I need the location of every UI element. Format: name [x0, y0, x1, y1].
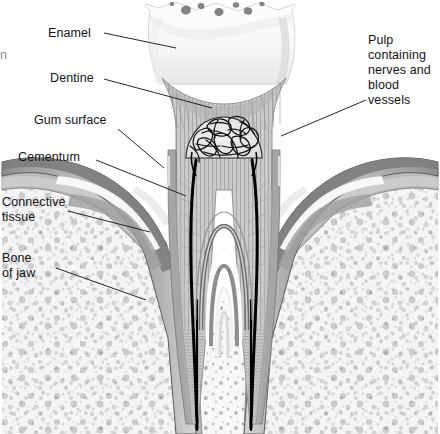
label-pulp-line1: Pulp — [368, 33, 393, 48]
pulp-leader — [281, 100, 366, 136]
label-pulp-line5: vessels — [368, 93, 410, 108]
tooth-cross-section-figure: n Enamel Dentine Gum surface Cementum Co… — [0, 0, 440, 434]
label-connective-tissue-line1: Connective — [2, 195, 66, 210]
label-connective-tissue-line2: tissue — [2, 210, 35, 225]
label-cementum: Cementum — [18, 150, 80, 165]
enamel-layer — [145, 2, 295, 84]
label-bone-of-jaw-line1: Bone — [2, 251, 32, 266]
label-pulp-line2: containing — [368, 48, 426, 63]
label-pulp-line4: blood — [368, 78, 399, 93]
label-gum-surface: Gum surface — [34, 113, 107, 128]
label-pulp-line3: nerves and — [368, 63, 431, 78]
label-bone-of-jaw-line2: of jaw — [2, 266, 35, 281]
label-dentine: Dentine — [50, 71, 94, 86]
gum-surface-leader — [118, 129, 164, 168]
label-enamel: Enamel — [48, 26, 91, 41]
clipped-edge-character: n — [0, 48, 7, 62]
